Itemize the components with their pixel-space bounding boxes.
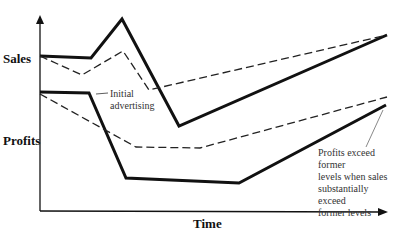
x-axis-label: Time: [193, 216, 222, 232]
note-line: advertising: [110, 100, 154, 112]
sales-solid-line: [40, 19, 387, 126]
initial-advertising-leader: [96, 93, 108, 94]
note-line: Profits exceed former: [318, 147, 396, 171]
y-axis-arrow-icon: [36, 15, 44, 24]
note-line: levels when sales: [318, 171, 396, 183]
chart-root: Sales Profits Time Initial advertising P…: [0, 0, 396, 238]
sales-dashed-line: [40, 35, 387, 90]
note-line: former levels: [318, 207, 396, 219]
sales-label: Sales: [3, 51, 31, 67]
profits-exceed-note: Profits exceed former levels when sales …: [318, 147, 396, 219]
note-line: substantially exceed: [318, 183, 396, 207]
note-line: Initial: [110, 88, 154, 100]
profits-label: Profits: [3, 133, 40, 149]
initial-advertising-note: Initial advertising: [110, 88, 154, 112]
